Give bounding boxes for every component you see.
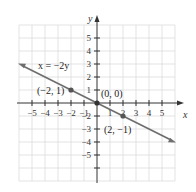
point-2-neg1 [120,113,125,118]
y-tick-label: −4 [81,137,91,147]
y-tick-label: −3 [81,124,91,134]
y-tick-label: 2 [87,72,92,82]
y-tick-label: −5 [81,150,91,160]
point-label-origin: (0, 0) [101,88,123,100]
y-tick-label: 1 [87,85,92,95]
y-tick-label: 4 [87,46,92,56]
point-origin [94,100,99,105]
x-tick-label: 4 [147,108,152,118]
point-neg2-1 [68,87,73,92]
y-tick-label: 5 [87,33,92,43]
coordinate-plane: −5 −4 −3 −2 −1 1 2 3 4 5 5 4 3 2 1 −2 −3… [0,0,196,192]
x-tick-label: −2 [66,108,76,118]
y-axis-arrow-icon [95,15,100,22]
y-axis-label: y [87,13,93,24]
x-tick-label: 3 [134,108,139,118]
y-tick-label: −2 [81,111,91,121]
x-axis-arrow-icon [177,101,184,106]
point-label-neg2-1: (−2, 1) [37,85,64,97]
x-tick-label: −3 [53,108,63,118]
x-axis-label: x [182,109,188,120]
y-axis [94,15,100,183]
point-label-2-neg1: (2, −1) [104,124,131,136]
equation-label: x = −2y [38,60,69,71]
x-tick-label: −5 [27,108,37,118]
y-tick-label: 3 [87,59,92,69]
x-tick-label: 5 [160,108,165,118]
x-tick-label: −4 [40,108,50,118]
